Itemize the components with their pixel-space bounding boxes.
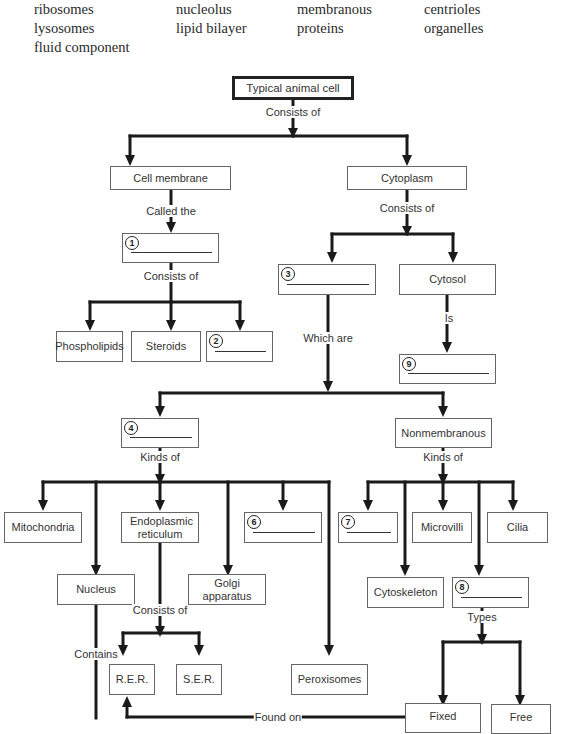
node-label: Microvilli <box>421 521 463 534</box>
answer-line <box>131 252 212 253</box>
node-label: Phospholipids <box>55 340 124 353</box>
node-cytoplasm: Cytoplasm <box>347 166 467 190</box>
node-cytoskeleton: Cytoskeleton <box>367 577 444 608</box>
node-label: R.E.R. <box>116 673 148 686</box>
connector-label-contains: Contains <box>73 648 118 660</box>
connector-label-called-the: Called the <box>145 205 197 217</box>
node-label: Cell membrane <box>133 172 208 185</box>
node-endoplasmic-reticulum: Endoplasmic reticulum <box>121 512 199 543</box>
blank-2[interactable]: 2 <box>206 331 273 362</box>
node-phospholipids: Phospholipids <box>56 331 123 362</box>
connector-label-types: Types <box>466 611 497 623</box>
node-label: Fixed <box>430 710 457 723</box>
node-label: Endoplasmic reticulum <box>130 515 190 541</box>
node-cilia: Cilia <box>487 512 548 543</box>
node-label: Steroids <box>146 340 186 353</box>
node-typical-animal-cell: Typical animal cell <box>232 76 354 100</box>
answer-line <box>461 597 522 598</box>
connector-label-is: Is <box>444 312 455 324</box>
node-nucleus: Nucleus <box>57 574 135 605</box>
connector-label-found-on: Found on <box>254 711 302 723</box>
node-steroids: Steroids <box>131 331 201 362</box>
node-label: Free <box>510 711 533 724</box>
answer-line <box>130 437 192 438</box>
node-label: Cytosol <box>429 273 466 286</box>
answer-line <box>408 373 489 374</box>
node-ser: S.E.R. <box>176 664 222 695</box>
answer-line <box>287 284 369 285</box>
connector-label-consists-of: Consists of <box>143 270 199 282</box>
node-label: Mitochondria <box>12 521 75 534</box>
node-fixed: Fixed <box>405 703 481 733</box>
node-label: Cilia <box>507 521 528 534</box>
blank-9[interactable]: 9 <box>399 354 496 384</box>
node-cell-membrane: Cell membrane <box>110 166 231 190</box>
connector-label-consists-of: Consists of <box>265 106 321 118</box>
blank-1[interactable]: 1 <box>122 233 219 263</box>
blank-8[interactable]: 8 <box>452 577 529 608</box>
answer-line <box>347 532 391 533</box>
number-badge: 3 <box>281 267 295 281</box>
node-label: Typical animal cell <box>246 82 339 95</box>
node-microvilli: Microvilli <box>412 512 472 543</box>
node-label: Golgi apparatus <box>197 577 257 603</box>
node-peroxisomes: Peroxisomes <box>291 664 368 695</box>
blank-3[interactable]: 3 <box>278 264 376 295</box>
blank-7[interactable]: 7 <box>338 512 398 543</box>
node-label: Cytoplasm <box>381 172 433 185</box>
connector-label-consists-of: Consists of <box>379 202 435 214</box>
node-rer: R.E.R. <box>109 664 155 695</box>
node-cytosol: Cytosol <box>399 264 496 295</box>
answer-line <box>215 351 266 352</box>
connector-label-consists-of: Consists of <box>132 604 188 616</box>
connector-label-which-are: Which are <box>302 332 354 344</box>
node-label: Nucleus <box>76 583 116 596</box>
node-golgi-apparatus: Golgi apparatus <box>188 574 266 605</box>
answer-line <box>253 532 315 533</box>
number-badge: 2 <box>209 334 223 348</box>
node-label: Nonmembranous <box>401 427 485 440</box>
node-free: Free <box>491 704 551 734</box>
blank-6[interactable]: 6 <box>244 512 322 543</box>
node-nonmembranous: Nonmembranous <box>395 418 492 448</box>
number-badge: 6 <box>247 515 261 529</box>
number-badge: 7 <box>341 515 355 529</box>
number-badge: 4 <box>124 421 138 435</box>
node-label: Cytoskeleton <box>374 586 438 599</box>
connector-label-kinds-of: Kinds of <box>422 451 464 463</box>
node-label: S.E.R. <box>183 673 215 686</box>
number-badge: 8 <box>455 580 469 594</box>
number-badge: 1 <box>125 236 139 250</box>
connector-label-kinds-of: Kinds of <box>139 451 181 463</box>
number-badge: 9 <box>402 357 416 371</box>
node-mitochondria: Mitochondria <box>4 512 82 543</box>
blank-4[interactable]: 4 <box>121 418 199 448</box>
node-label: Peroxisomes <box>298 673 362 686</box>
